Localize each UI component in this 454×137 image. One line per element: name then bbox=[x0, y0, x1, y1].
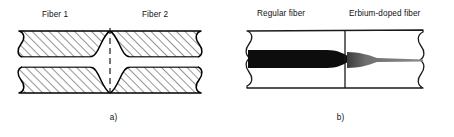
regular-fiber-core bbox=[248, 50, 347, 68]
label-erbium-doped-fiber: Erbium-doped fiber bbox=[349, 10, 420, 18]
caption-b: b) bbox=[227, 114, 454, 122]
label-fiber-1: Fiber 1 bbox=[42, 11, 68, 19]
label-regular-fiber: Regular fiber bbox=[257, 10, 305, 18]
panel-a: Fiber 1 Fiber 2 a) bbox=[0, 0, 227, 137]
panel-b: Regular fiber Erbium-doped fiber b) bbox=[227, 0, 454, 137]
caption-a: a) bbox=[0, 114, 227, 122]
figure-fiber-splice-diagram: Fiber 1 Fiber 2 a) Regular fiber E bbox=[0, 0, 454, 137]
label-fiber-2: Fiber 2 bbox=[142, 11, 168, 19]
